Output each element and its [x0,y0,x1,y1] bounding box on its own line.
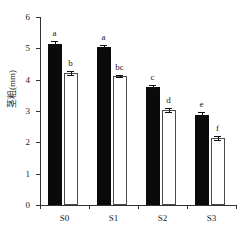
error-cap-s1-open-upper [116,75,123,76]
error-cap-s3-filled-upper [198,112,205,113]
error-cap-s3-open-upper [214,136,221,137]
error-cap-s0-open-lower [67,75,74,76]
error-cap-s0-filled-upper [51,41,58,42]
error-cap-s3-open-lower [214,140,221,141]
significance-letter-s2-open: d [166,96,171,105]
error-cap-s2-open-upper [165,108,172,109]
bar-s3-open [211,138,225,205]
y-tick-label-4: 4 [26,75,31,84]
y-tick-label-1: 1 [26,169,31,178]
bar-s1-open [113,76,127,205]
bar-s1-filled [97,47,111,205]
y-tick-2: 2 [36,142,40,143]
x-tick-3 [187,205,188,209]
error-cap-s1-filled-lower [100,49,107,50]
significance-letter-s1-filled: a [102,33,106,42]
significance-letter-s2-filled: c [151,73,155,82]
error-cap-s2-filled-upper [149,85,156,86]
significance-letter-s3-open: f [216,124,219,133]
y-tick-3: 3 [36,111,40,112]
y-tick-label-5: 5 [26,44,31,53]
bar-s2-open [162,110,176,205]
y-tick-label-6: 6 [26,13,31,22]
y-tick-4: 4 [36,80,40,81]
x-axis-label-s1: S1 [109,213,119,223]
x-tick-4 [236,205,237,209]
x-axis-label-s2: S2 [158,213,168,223]
bar-s0-open [64,73,78,205]
bar-chart: 茎粗(mm) 0123456 S0S1S2S3 ababccdef [0,0,242,232]
y-tick-1: 1 [36,174,40,175]
bar-s3-filled [195,115,209,205]
x-axis-label-s3: S3 [207,213,217,223]
y-tick-label-0: 0 [26,201,31,210]
x-tick-0 [40,205,41,209]
bar-s2-filled [146,87,160,205]
x-axis-label-s0: S0 [60,213,70,223]
error-cap-s0-filled-lower [51,47,58,48]
x-tick-1 [89,205,90,209]
error-cap-s2-open-lower [165,112,172,113]
y-axis-line [40,17,41,205]
error-cap-s3-filled-lower [198,117,205,118]
significance-letter-s1-open: bc [115,63,124,72]
error-cap-s2-filled-lower [149,89,156,90]
bar-s0-filled [48,44,62,205]
y-tick-label-3: 3 [26,107,31,116]
x-tick-2 [138,205,139,209]
plot-area: 0123456 S0S1S2S3 ababccdef [40,17,236,205]
y-tick-label-2: 2 [26,138,31,147]
y-axis-title: 茎粗(mm) [7,53,17,125]
error-cap-s1-open-lower [116,77,123,78]
significance-letter-s3-filled: e [200,100,204,109]
y-tick-6: 6 [36,17,40,18]
error-cap-s1-filled-upper [100,45,107,46]
y-tick-5: 5 [36,48,40,49]
significance-letter-s0-filled: a [53,29,57,38]
significance-letter-s0-open: b [68,59,73,68]
error-cap-s0-open-upper [67,71,74,72]
